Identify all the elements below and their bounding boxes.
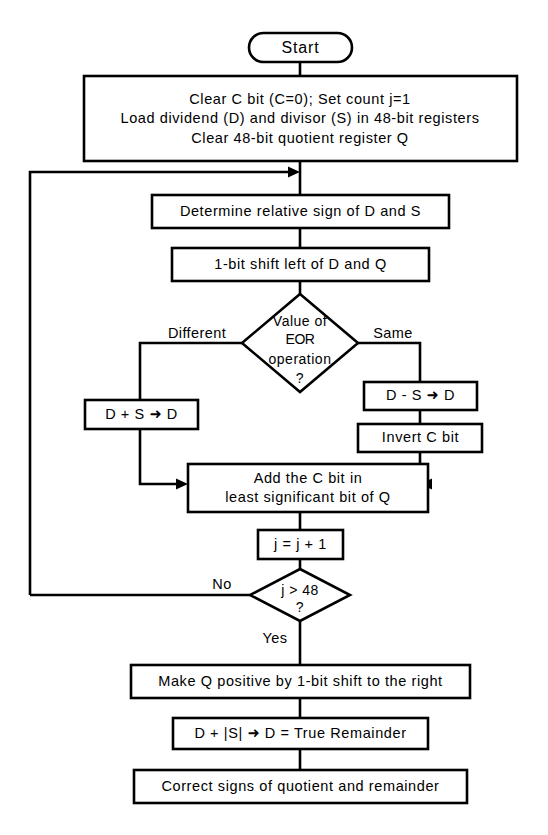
node-eor-decision-line3: operation <box>269 351 332 367</box>
node-eor-decision-line2: EOR <box>286 331 315 347</box>
node-start[interactable]: Start <box>249 33 352 62</box>
label-no: No <box>212 576 231 592</box>
node-eor-decision[interactable]: Value of EOR operation ? <box>242 294 358 392</box>
label-different: Different <box>168 325 226 341</box>
node-add-c-bit-line1: Add the C bit in <box>254 470 363 486</box>
node-add-c-bit[interactable]: Add the C bit in least significant bit o… <box>188 464 428 512</box>
node-eor-decision-line1: Value of <box>273 313 327 329</box>
node-init-line3: Clear 48-bit quotient register Q <box>191 130 408 146</box>
node-sub-ds-label: D - S ➜ D <box>386 387 455 403</box>
node-correct-signs-label: Correct signs of quotient and remainder <box>161 778 439 794</box>
arrowhead-loop-back <box>288 167 300 178</box>
node-add-ds-label: D + S ➜ D <box>105 406 178 422</box>
node-j-decision-line2: ? <box>296 599 304 615</box>
node-j-decision[interactable]: j > 48 ? <box>250 569 350 621</box>
node-invert-c[interactable]: Invert C bit <box>358 424 482 452</box>
node-invert-c-label: Invert C bit <box>382 429 459 445</box>
node-correct-signs[interactable]: Correct signs of quotient and remainder <box>134 770 467 803</box>
node-make-q-positive[interactable]: Make Q positive by 1-bit shift to the ri… <box>131 665 470 698</box>
node-add-ds[interactable]: D + S ➜ D <box>85 400 198 429</box>
node-true-remainder-label: D + |S| ➜ D = True Remainder <box>194 725 406 741</box>
node-add-c-bit-line2: least significant bit of Q <box>225 489 391 505</box>
node-init-line2: Load dividend (D) and divisor (S) in 48-… <box>120 110 479 126</box>
node-make-q-positive-label: Make Q positive by 1-bit shift to the ri… <box>158 673 443 689</box>
node-true-remainder[interactable]: D + |S| ➜ D = True Remainder <box>173 718 428 749</box>
node-init[interactable]: Clear C bit (C=0); Set count j=1 Load di… <box>84 76 517 161</box>
node-determine-sign[interactable]: Determine relative sign of D and S <box>152 195 449 228</box>
connector-same-branch <box>358 343 420 382</box>
division-flowchart: Start Clear C bit (C=0); Set count j=1 L… <box>0 0 548 835</box>
node-increment-j[interactable]: j = j + 1 <box>258 530 343 559</box>
node-increment-j-label: j = j + 1 <box>273 536 327 552</box>
node-shift-left[interactable]: 1-bit shift left of D and Q <box>172 248 429 281</box>
node-init-line1: Clear C bit (C=0); Set count j=1 <box>189 91 411 107</box>
label-same: Same <box>373 325 412 341</box>
node-start-label: Start <box>282 39 320 56</box>
connector-loop-back-rail <box>30 172 292 595</box>
arrowhead-different-into-add <box>176 479 188 490</box>
label-yes: Yes <box>263 630 288 646</box>
node-eor-decision-line4: ? <box>296 370 304 386</box>
node-sub-ds[interactable]: D - S ➜ D <box>364 382 477 410</box>
node-determine-sign-label: Determine relative sign of D and S <box>180 203 421 219</box>
node-j-decision-line1: j > 48 <box>280 582 319 598</box>
node-shift-left-label: 1-bit shift left of D and Q <box>214 256 387 272</box>
